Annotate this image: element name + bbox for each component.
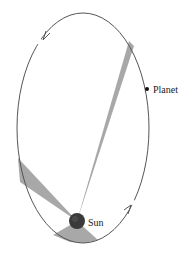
sector-top-thin xyxy=(77,41,134,221)
planet-label: Planet xyxy=(153,84,178,95)
planet-icon xyxy=(145,87,149,91)
orbit-diagram: Sun Planet xyxy=(0,0,194,259)
sun-label: Sun xyxy=(88,217,104,228)
